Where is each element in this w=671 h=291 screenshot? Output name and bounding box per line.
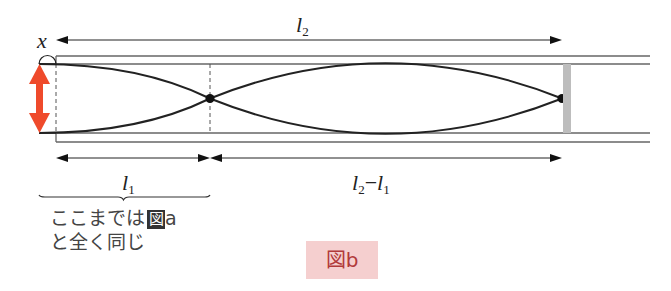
l2-minus-l1-dimension-arrow (210, 154, 562, 162)
standing-wave (39, 63, 562, 134)
label-x: x (37, 28, 47, 54)
node-dot-1 (206, 94, 215, 103)
label-l1: l1 (122, 170, 135, 198)
note-same-as-fig-a: ここまでは図a と全く同じ (50, 206, 177, 254)
label-l2: l2 (296, 12, 309, 40)
l1-dimension-arrow (56, 154, 210, 162)
piston (563, 64, 571, 133)
fig-ref-box: 図 (147, 210, 165, 229)
vibration-arrow-icon (29, 64, 50, 133)
l2-dimension-arrow (56, 36, 562, 44)
diagram-figure-b: x l2 l1 l2−l1 ここまでは図a と全く同じ 図b (0, 0, 671, 291)
figure-caption: 図b (306, 241, 378, 279)
end-correction-arc-icon (39, 56, 56, 65)
label-l2-minus-l1: l2−l1 (352, 170, 390, 198)
